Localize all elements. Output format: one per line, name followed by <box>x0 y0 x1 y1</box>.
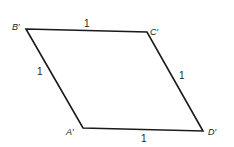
parallelogram-diagram: B′ C′ D′ A′ 1 1 1 1 <box>0 0 234 147</box>
parallelogram-shape <box>26 29 203 131</box>
vertex-label-b: B′ <box>12 22 20 32</box>
vertex-label-c: C′ <box>150 27 158 37</box>
edge-length-bc: 1 <box>84 18 90 29</box>
edge-length-da: 1 <box>141 133 147 144</box>
vertex-label-d: D′ <box>208 127 216 137</box>
edge-length-cd: 1 <box>179 70 185 81</box>
vertex-label-a: A′ <box>65 127 74 137</box>
edge-length-ab: 1 <box>37 66 43 77</box>
